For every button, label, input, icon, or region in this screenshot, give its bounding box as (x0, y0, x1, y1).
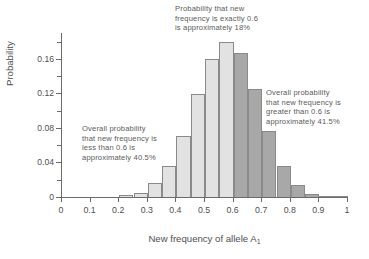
histogram-bar (162, 166, 176, 197)
x-axis-tick (290, 198, 291, 202)
x-axis-tick (204, 198, 205, 202)
x-axis-tick (90, 198, 91, 202)
x-axis-tick-label: 1 (345, 205, 350, 215)
x-axis-tick (147, 198, 148, 202)
histogram-bar (262, 131, 276, 197)
y-axis-tick-label: 0.12 (37, 88, 54, 98)
histogram-bar (291, 185, 305, 197)
histogram-bar (148, 183, 162, 197)
y-axis-tick-label: 0.04 (37, 157, 54, 167)
x-axis-title-text: New frequency of allele A (148, 233, 256, 244)
x-axis-tick (175, 198, 176, 202)
x-axis-tick (261, 198, 262, 202)
x-axis-tick (61, 198, 62, 202)
x-axis-tick-label: 0.2 (112, 205, 124, 215)
y-axis-tick-label: 0.08 (37, 123, 54, 133)
x-axis-tick-label: 0.3 (141, 205, 153, 215)
x-axis-tick-label: 0.7 (255, 205, 267, 215)
x-axis-tick-label: 0.1 (83, 205, 95, 215)
histogram-figure: Probability that new frequency is exactl… (0, 0, 369, 259)
histogram-bar (191, 94, 205, 197)
histogram-bar (205, 59, 219, 197)
histogram-bar (277, 166, 291, 197)
x-axis-tick-label: 0 (59, 205, 64, 215)
annotation-exact-probability: Probability that new frequency is exactl… (175, 4, 300, 33)
y-axis-tick-label: 0 (49, 192, 54, 202)
x-axis-title: New frequency of allele A1 (61, 233, 348, 245)
x-axis-tick-label: 0.8 (284, 205, 296, 215)
histogram-bar (134, 193, 148, 197)
x-axis-tick-label: 0.6 (226, 205, 238, 215)
y-axis-major-tick (56, 128, 61, 129)
x-axis-tick (347, 198, 348, 202)
histogram-bar (234, 53, 248, 197)
x-axis-tick (233, 198, 234, 202)
histogram-bar (119, 195, 133, 197)
y-axis-title: Probability (4, 41, 15, 86)
x-axis-tick-label: 0.4 (169, 205, 181, 215)
histogram-bar (319, 196, 333, 197)
x-axis-tick-label: 0.5 (198, 205, 210, 215)
y-axis-minor-tick (57, 42, 61, 43)
y-axis-major-tick (56, 162, 61, 163)
y-axis-minor-tick (57, 180, 61, 181)
histogram-bar (305, 194, 319, 197)
x-axis-tick-label: 0.9 (312, 205, 324, 215)
y-axis-minor-tick (57, 145, 61, 146)
histogram-bar (176, 136, 190, 197)
y-axis-major-tick (56, 93, 61, 94)
bar-series (62, 33, 348, 197)
y-axis-minor-tick (57, 76, 61, 77)
x-axis-title-subscript: 1 (257, 238, 261, 245)
histogram-bar (248, 89, 262, 197)
y-axis-major-tick (56, 59, 61, 60)
histogram-bar (334, 196, 348, 197)
y-axis-tick-label: 0.16 (37, 54, 54, 64)
histogram-bar (219, 42, 233, 197)
y-axis-minor-tick (57, 111, 61, 112)
x-axis-tick (118, 198, 119, 202)
plot-area: 00.040.080.120.16 00.10.20.30.40.50.60.7… (61, 33, 348, 198)
x-axis-tick (318, 198, 319, 202)
